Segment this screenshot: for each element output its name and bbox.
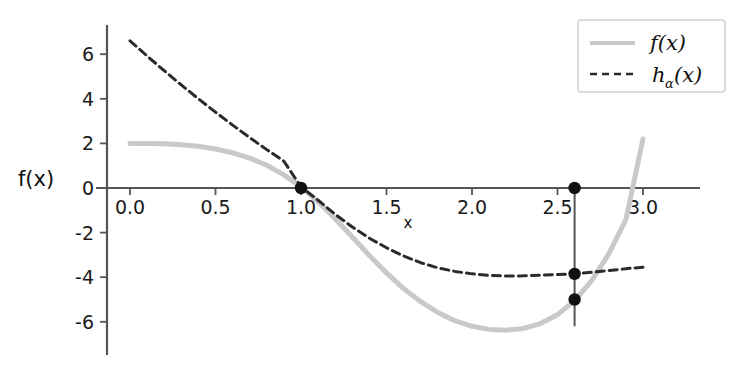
data-series-group — [130, 41, 643, 330]
data-point-marker — [568, 182, 580, 194]
x-tick-label: 1.5 — [371, 196, 401, 218]
chart-legend: f(x) h α (x) — [578, 20, 725, 92]
x-tick-label: 2.0 — [457, 196, 487, 218]
y-tick-label: 2 — [82, 132, 94, 154]
y-tick-label: -6 — [75, 311, 94, 333]
y-tick-label: -4 — [75, 266, 94, 288]
chart-figure: 6420-2-4-6 0.00.51.01.52.02.53.0 f(x) x … — [0, 0, 743, 378]
y-tick-label: 6 — [82, 43, 94, 65]
x-tick-label: 0.5 — [200, 196, 230, 218]
y-tick-label: 0 — [82, 177, 94, 199]
series-path — [130, 139, 643, 330]
data-point-markers — [295, 182, 581, 306]
legend-label-h-subscript: α — [665, 76, 674, 91]
y-axis-title: f(x) — [18, 167, 54, 191]
legend-label-h: h — [652, 63, 666, 87]
data-point-marker — [295, 182, 307, 194]
x-tick-label: 0.0 — [115, 196, 145, 218]
data-point-marker — [568, 293, 580, 305]
series-path — [130, 41, 643, 276]
legend-label-f: f(x) — [648, 31, 686, 55]
x-tick-label: 2.5 — [542, 196, 572, 218]
chart-canvas: 6420-2-4-6 0.00.51.01.52.02.53.0 f(x) x … — [0, 0, 743, 378]
y-tick-label: 4 — [82, 88, 94, 110]
data-point-marker — [568, 268, 580, 280]
x-axis-title: x — [404, 214, 413, 232]
y-axis-ticks: 6420-2-4-6 — [75, 43, 107, 333]
legend-label-h-suffix: (x) — [674, 63, 702, 87]
y-tick-label: -2 — [75, 222, 94, 244]
